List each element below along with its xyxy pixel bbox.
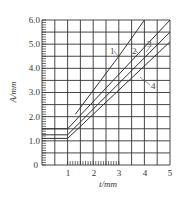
y-tick-label: 6.0	[29, 15, 41, 25]
curve-label-2: 2	[132, 46, 137, 56]
y-tick-label: 3.0	[29, 87, 41, 97]
x-tick-label: 1	[66, 168, 71, 178]
y-tick-label: 1.0	[29, 136, 41, 146]
x-axis-title: t/mm	[99, 179, 118, 189]
y-tick-label: 0	[34, 160, 39, 170]
curve-label-1: 1	[110, 46, 115, 56]
y-axis-title: A/mm	[8, 81, 18, 103]
chart-canvas: 0 1.0 2.0 3.0 4.0 5.0 6.0 1 2 3 4 5 t/mm…	[0, 0, 185, 199]
x-tick-label: 4	[143, 168, 148, 178]
leader-4	[140, 77, 150, 85]
leader-1	[114, 51, 118, 56]
curve-label-4: 4	[151, 81, 156, 91]
curve-label-3: 3	[147, 39, 152, 49]
y-tick-label: 2.0	[29, 112, 41, 122]
curve-1	[75, 20, 144, 114]
y-tick-label: 5.0	[29, 39, 41, 49]
y-tick-label: 4.0	[29, 63, 41, 73]
x-tick-label: 5	[168, 168, 173, 178]
x-tick-label: 3	[117, 168, 122, 178]
x-tick-label: 2	[92, 168, 97, 178]
